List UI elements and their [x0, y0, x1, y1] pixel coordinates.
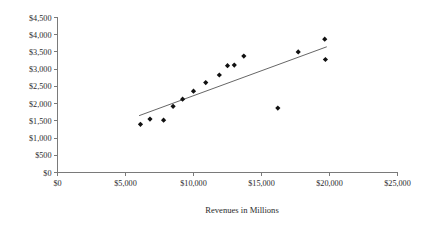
y-axis-tick-label: $1,000 [29, 134, 52, 143]
y-axis: $0$500$1,000$1,500$2,000$2,500$3,000$3,5… [29, 14, 58, 178]
trend-line [139, 47, 327, 116]
x-axis-title: Revenues in Millions [205, 205, 279, 215]
data-point-marker [296, 49, 301, 54]
data-point-marker [241, 53, 246, 58]
chart-plot-area: $0$500$1,000$1,500$2,000$2,500$3,000$3,5… [0, 0, 427, 226]
y-axis-tick-label: $1,500 [29, 117, 52, 126]
x-axis-tick-label: $15,000 [248, 179, 275, 188]
y-axis-tick-label: $500 [35, 151, 51, 160]
data-point-marker [161, 118, 166, 123]
y-axis-tick-label: $2,500 [29, 82, 52, 91]
data-point-marker [323, 57, 328, 62]
data-point-marker [147, 117, 152, 122]
data-point-marker [180, 97, 185, 102]
data-point-marker [171, 104, 176, 109]
x-axis-tick-label: $0 [53, 179, 61, 188]
data-point-marker [203, 80, 208, 85]
data-point-marker [275, 105, 280, 110]
data-point-marker [217, 72, 222, 77]
x-axis-tick-label: $25,000 [384, 179, 411, 188]
y-axis-tick-label: $2,000 [29, 100, 52, 109]
data-point-marker [225, 63, 230, 68]
y-axis-tick-label: $3,000 [29, 65, 52, 74]
x-axis-tick-label: $20,000 [316, 179, 343, 188]
x-axis-tick-label: $10,000 [180, 179, 207, 188]
y-axis-tick-label: $4,500 [29, 14, 52, 23]
y-axis-tick-label: $0 [43, 169, 51, 178]
data-point-marker [232, 62, 237, 67]
y-axis-tick-label: $4,000 [29, 31, 52, 40]
data-point-marker [191, 89, 196, 94]
trend-line-path [139, 47, 327, 116]
x-axis: $0$5,000$10,000$15,000$20,000$25,000 [53, 173, 410, 188]
x-axis-tick-label: $5,000 [114, 179, 137, 188]
data-point-marker [322, 37, 327, 42]
scatter-chart: $0$500$1,000$1,500$2,000$2,500$3,000$3,5… [0, 0, 427, 226]
y-axis-tick-label: $3,500 [29, 48, 52, 57]
data-point-marker [138, 122, 143, 127]
data-points [138, 37, 328, 127]
